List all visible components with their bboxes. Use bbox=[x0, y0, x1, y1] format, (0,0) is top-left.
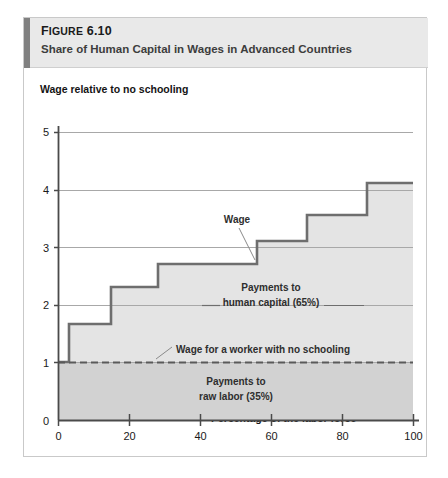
figure-number: FIGURE 6.10 bbox=[41, 24, 112, 38]
human-capital-annotation-line1: Payments to bbox=[241, 282, 300, 293]
raw-labor-annotation-line2: raw labor (35%) bbox=[199, 391, 273, 402]
raw-labor-annotation-line1: Payments to bbox=[206, 376, 265, 387]
figure-number-value: 6.10 bbox=[87, 24, 112, 38]
x-tick-label-20: 20 bbox=[123, 430, 135, 442]
no-schooling-annotation-label: Wage for a worker with no schooling bbox=[176, 344, 350, 355]
y-tick-marks bbox=[54, 133, 58, 363]
figure-number-word-f: F bbox=[41, 24, 49, 38]
human-capital-annotation-line2: human capital (65%) bbox=[223, 297, 320, 308]
y-tick-label-5: 5 bbox=[43, 126, 49, 138]
human-capital-area bbox=[58, 183, 413, 362]
figure-number-word-igure: IGURE bbox=[49, 25, 83, 37]
x-tick-label-80: 80 bbox=[336, 430, 348, 442]
chart-plot: 5 4 3 2 1 0 0 20 40 60 80 100 Wage Payme… bbox=[24, 68, 428, 457]
header-accent-bar bbox=[24, 18, 30, 68]
figure-container: FIGURE 6.10 Share of Human Capital in Wa… bbox=[23, 17, 427, 457]
y-tick-label-0: 0 bbox=[43, 415, 49, 427]
y-tick-label-1: 1 bbox=[43, 357, 49, 369]
x-tick-label-40: 40 bbox=[194, 430, 206, 442]
y-tick-label-2: 2 bbox=[43, 299, 49, 311]
figure-header: FIGURE 6.10 Share of Human Capital in Wa… bbox=[24, 18, 428, 68]
figure-title: Share of Human Capital in Wages in Advan… bbox=[41, 43, 352, 55]
x-tick-label-60: 60 bbox=[265, 430, 277, 442]
plot-region: Wage relative to no schooling Percentage… bbox=[24, 68, 428, 457]
y-tick-label-4: 4 bbox=[43, 184, 49, 196]
x-tick-label-100: 100 bbox=[404, 430, 422, 442]
wage-annotation-label: Wage bbox=[224, 214, 251, 225]
wage-annotation-leader-line bbox=[239, 228, 255, 260]
x-tick-label-0: 0 bbox=[55, 430, 61, 442]
y-tick-label-3: 3 bbox=[43, 242, 49, 254]
